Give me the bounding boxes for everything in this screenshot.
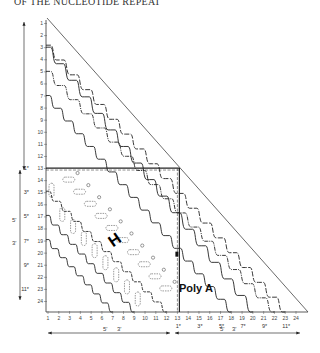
small-circle <box>162 268 165 271</box>
x-repeat-label: 11* <box>282 323 291 329</box>
left-3prime-label: 3' <box>12 240 16 246</box>
x-tick-label: 11 <box>153 315 158 321</box>
poly-a-label: Poly A <box>179 282 213 294</box>
bottom-left-5prime-label: 5' <box>103 326 107 332</box>
y-tick-label: 11 <box>38 141 43 147</box>
stepped-curve-dashed <box>46 45 285 312</box>
axis-labels: 1234567891011121314151617181920212223241… <box>12 20 299 332</box>
dashed-oval-horizontal <box>63 177 75 182</box>
y-repeat-label: 7* <box>24 238 30 244</box>
dashed-oval-vertical <box>92 244 97 258</box>
x-tick-label: 5 <box>90 315 93 321</box>
y-tick-label: 6 <box>40 80 43 86</box>
bottom-right-3prime-label: 3' <box>232 326 236 332</box>
bottom-right-5prime-label: 5' <box>220 326 224 332</box>
x-tick-label: 20 <box>250 315 256 321</box>
small-circle <box>76 171 79 174</box>
x-tick-label: 16 <box>207 315 213 321</box>
dashed-oval-vertical <box>135 292 140 306</box>
y-tick-label: 12 <box>37 153 43 159</box>
stepped-curve-outer <box>46 47 253 312</box>
y-tick-label: 7 <box>40 93 43 99</box>
x-repeat-label: 7* <box>240 323 246 329</box>
y-tick-label: 13 <box>37 165 43 171</box>
x-tick-label: 7 <box>111 315 114 321</box>
x-tick-label: 2 <box>57 315 60 321</box>
x-tick-label: 4 <box>79 315 82 321</box>
dashed-oval-vertical <box>81 232 86 246</box>
left-arrow-lower-down-head <box>18 296 21 300</box>
x-tick-label: 23 <box>282 315 288 321</box>
x-repeat-label: 9* <box>262 323 268 329</box>
dashed-oval-horizontal <box>127 250 139 255</box>
dashed-oval-horizontal <box>84 201 96 206</box>
small-circle <box>141 244 144 247</box>
x-tick-label: 9 <box>133 315 136 321</box>
x-tick-label: 13 <box>175 315 181 321</box>
bottom-arrow-right-head <box>296 331 300 334</box>
dashed-oval-horizontal <box>138 262 150 267</box>
y-repeat-label: 11* <box>21 286 30 292</box>
y-tick-label: 3 <box>40 44 43 50</box>
bottom-arrow-left-head <box>48 331 52 334</box>
y-tick-label: 22 <box>37 274 43 280</box>
x-repeat-label: 1* <box>176 323 182 329</box>
y-tick-label: 4 <box>40 56 43 62</box>
y-tick-label: 20 <box>37 250 43 256</box>
y-tick-label: 19 <box>37 238 43 244</box>
x-tick-label: 6 <box>101 315 104 321</box>
x-tick-label: 15 <box>196 315 202 321</box>
dashed-oval-vertical <box>103 256 108 270</box>
dashed-oval-horizontal <box>160 286 172 291</box>
dashed-oval-horizontal <box>95 213 107 218</box>
y-repeat-label: 5* <box>24 213 30 219</box>
small-circle <box>151 256 154 259</box>
hairpin-symbol: H <box>105 229 124 250</box>
y-tick-label: 18 <box>37 225 43 231</box>
dashed-oval-horizontal <box>149 274 161 279</box>
dashed-oval-vertical <box>124 280 129 294</box>
small-circle <box>98 196 101 199</box>
dashed-oval-vertical <box>114 268 119 282</box>
left-5prime-label: 5' <box>12 217 16 223</box>
left-arrow-lower-up-head <box>18 170 21 174</box>
x-tick-label: 14 <box>185 315 191 321</box>
y-tick-label: 14 <box>37 177 43 183</box>
y-tick-label: 15 <box>37 189 43 195</box>
axes <box>44 18 308 314</box>
filled-marker <box>175 252 178 257</box>
y-repeat-label: 9* <box>24 262 30 268</box>
y-tick-label: 1 <box>40 20 43 26</box>
x-repeat-label: 3* <box>197 323 203 329</box>
y-tick-label: 8 <box>40 105 43 111</box>
y-tick-label: 2 <box>40 32 43 38</box>
y-tick-label: 10 <box>37 129 43 135</box>
dashed-oval-horizontal <box>74 189 86 194</box>
y-repeat-label: 3* <box>24 189 30 195</box>
y-tick-label: 9 <box>40 117 43 123</box>
small-circle <box>130 232 133 235</box>
small-circle <box>108 208 111 211</box>
y-tick-label: 16 <box>37 201 43 207</box>
y-tick-label: 17 <box>37 213 43 219</box>
x-tick-label: 8 <box>122 315 125 321</box>
stepped-curve-inner <box>46 96 231 312</box>
x-tick-label: 21 <box>261 315 267 321</box>
dot-matrix-diagram: 1234567891011121314151617181920212223241… <box>0 0 320 353</box>
x-tick-label: 18 <box>229 315 235 321</box>
y-tick-label: 21 <box>37 262 43 268</box>
y-tick-label: 5 <box>40 68 43 74</box>
bottom-left-3prime-label: 3' <box>117 326 121 332</box>
y-tick-label: 23 <box>37 286 43 292</box>
bottom-arrow-left-right-head <box>166 331 170 334</box>
small-circle <box>173 280 176 283</box>
x-tick-label: 3 <box>68 315 71 321</box>
small-circle <box>87 184 90 187</box>
dashed-oval-horizontal <box>106 225 118 230</box>
strand-arrows <box>18 22 300 335</box>
left-arrow-upper-up-head <box>22 22 25 26</box>
stepped-curve-box-c <box>46 191 167 312</box>
small-circle <box>119 220 122 223</box>
y-tick-label: 24 <box>37 298 43 304</box>
x-tick-label: 22 <box>272 315 278 321</box>
